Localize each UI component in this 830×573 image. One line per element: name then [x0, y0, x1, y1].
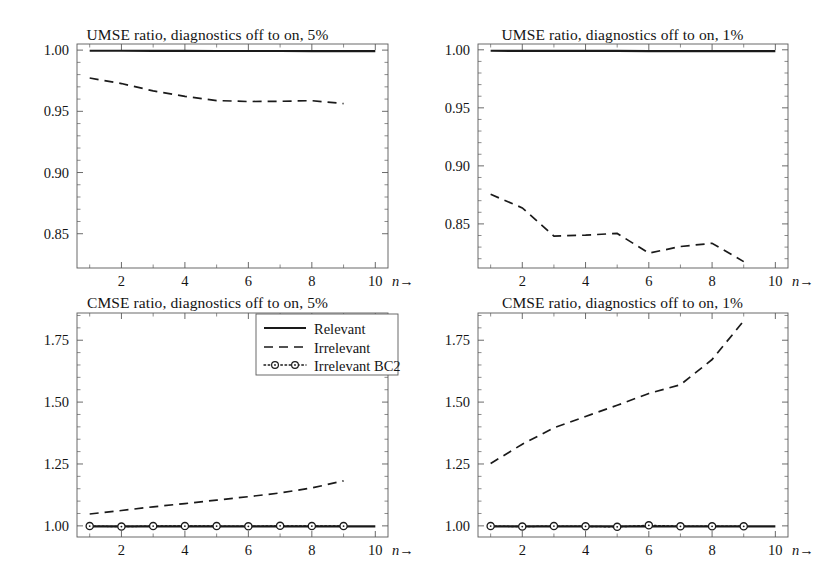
- series-marker-dot: [616, 526, 618, 528]
- y-tick-label: 1.00: [445, 42, 470, 58]
- series-marker-dot: [311, 525, 313, 527]
- x-tick-label: 10: [768, 542, 783, 558]
- legend-label: Relevant: [314, 321, 366, 337]
- panel-umse-1pct: UMSE ratio, diagnostics off to on, 1% 24…: [415, 0, 830, 287]
- legend-marker-dot: [274, 364, 276, 366]
- series-marker-dot: [648, 524, 650, 526]
- panel-cmse-1pct: CMSE ratio, diagnostics off to on, 1% 24…: [415, 287, 830, 573]
- y-tick-label: 0.90: [44, 165, 69, 181]
- series-line-irrelevant: [90, 481, 344, 514]
- x-tick-label: 4: [582, 542, 590, 558]
- x-tick-label: 10: [368, 542, 383, 558]
- series-marker-dot: [152, 525, 154, 527]
- y-tick-label: 0.90: [445, 158, 470, 174]
- series-line-irrelevant: [90, 78, 344, 104]
- series-marker-dot: [553, 525, 555, 527]
- plot-frame: [478, 313, 788, 537]
- y-tick-label: 1.00: [44, 518, 69, 534]
- y-tick-label: 1.50: [44, 394, 69, 410]
- y-tick-label: 0.85: [445, 216, 470, 232]
- y-tick-label: 1.00: [445, 518, 470, 534]
- series-line-irrelevant: [491, 321, 744, 464]
- y-tick-label: 1.50: [445, 394, 470, 410]
- legend-label: Irrelevant: [314, 340, 370, 356]
- x-tick-label: 6: [245, 542, 252, 558]
- series-marker-dot: [521, 526, 523, 528]
- panel-umse-5pct: UMSE ratio, diagnostics off to on, 5% 24…: [0, 0, 415, 287]
- legend-marker-dot: [294, 364, 296, 366]
- y-tick-label: 1.75: [44, 332, 69, 348]
- series-marker-dot: [247, 525, 249, 527]
- plot-area-cmse-1pct: 246810n→1.001.251.501.75: [415, 287, 830, 573]
- plot-area-cmse-5pct: 246810n→1.001.251.501.75RelevantIrreleva…: [0, 287, 415, 573]
- y-tick-label: 0.95: [445, 100, 470, 116]
- plot-area-umse-5pct: 246810n→0.850.900.951.00: [0, 0, 415, 287]
- series-marker-dot: [743, 525, 745, 527]
- legend: RelevantIrrelevantIrrelevant BC2: [256, 314, 401, 375]
- x-tick-label: 2: [118, 542, 125, 558]
- x-tick-label: 8: [708, 542, 715, 558]
- x-tick-label: 6: [645, 542, 652, 558]
- series-marker-dot: [121, 526, 123, 528]
- series-marker-dot: [184, 525, 186, 527]
- x-tick-label: 2: [519, 542, 526, 558]
- series-marker-dot: [89, 525, 91, 527]
- x-axis-label: n→: [792, 542, 814, 558]
- plot-frame: [77, 44, 388, 268]
- series-marker-dot: [680, 525, 682, 527]
- series-marker-dot: [279, 525, 281, 527]
- plot-area-umse-1pct: 246810n→0.850.900.951.00: [415, 0, 830, 287]
- series-marker-dot: [490, 525, 492, 527]
- y-tick-label: 1.25: [445, 456, 470, 472]
- panel-cmse-5pct: CMSE ratio, diagnostics off to on, 5% 24…: [0, 287, 415, 573]
- figure-panel-grid: UMSE ratio, diagnostics off to on, 5% 24…: [0, 0, 830, 573]
- plot-frame: [478, 44, 788, 268]
- x-tick-label: 8: [308, 542, 315, 558]
- series-marker-dot: [711, 525, 713, 527]
- y-tick-label: 1.25: [44, 456, 69, 472]
- series-marker-dot: [343, 525, 345, 527]
- x-tick-label: 4: [181, 542, 189, 558]
- y-tick-label: 1.75: [445, 332, 470, 348]
- series-marker-dot: [216, 525, 218, 527]
- y-tick-label: 1.00: [44, 42, 69, 58]
- x-axis-label: n→: [392, 542, 414, 558]
- y-tick-label: 0.95: [44, 103, 69, 119]
- y-tick-label: 0.85: [44, 226, 69, 242]
- legend-label: Irrelevant BC2: [314, 358, 401, 374]
- series-line-irrelevant: [491, 194, 744, 261]
- series-marker-dot: [585, 525, 587, 527]
